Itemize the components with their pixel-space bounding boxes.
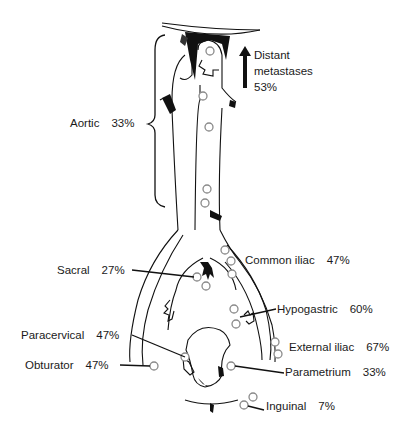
parametrium-pct: 33% <box>363 366 386 378</box>
label-aortic: Aortic33% <box>70 117 134 130</box>
distant-pct: 53% <box>254 79 313 95</box>
inguinal-name: Inguinal <box>266 400 306 412</box>
label-inguinal: Inguinal7% <box>266 400 335 413</box>
paracervical-pct: 47% <box>96 329 119 341</box>
up-arrow-icon <box>239 46 251 88</box>
paracervical-name: Paracervical <box>21 329 84 341</box>
inguinal-pct: 7% <box>318 400 335 412</box>
obturator-name: Obturator <box>25 359 74 371</box>
curly-brace-icon <box>148 35 165 207</box>
label-parametrium: Parametrium33% <box>285 366 386 379</box>
diaphragm <box>162 23 260 34</box>
aortic-pct: 33% <box>111 117 134 129</box>
inguinal-ligament <box>185 400 238 404</box>
parametrium-name: Parametrium <box>285 366 351 378</box>
uterus <box>183 328 230 387</box>
external-iliac-name: External iliac <box>289 341 354 353</box>
sacral-vessel <box>200 262 214 280</box>
aortic-name: Aortic <box>70 117 99 129</box>
label-paracervical: Paracervical47% <box>21 329 119 342</box>
sacral-name: Sacral <box>57 264 90 276</box>
iliac-vessels <box>130 230 276 365</box>
leader-lines <box>120 270 284 410</box>
obturator-pct: 47% <box>86 359 109 371</box>
distant-line2: metastases <box>254 63 313 79</box>
label-sacral: Sacral27% <box>57 264 125 277</box>
external-iliac-pct: 67% <box>366 341 389 353</box>
label-common-iliac: Common iliac47% <box>245 254 350 267</box>
common-iliac-name: Common iliac <box>245 254 315 266</box>
distant-line1: Distant <box>254 47 313 63</box>
vena-cava <box>160 55 192 230</box>
label-distant-metastases: Distant metastases 53% <box>254 47 313 95</box>
hypogastric-name: Hypogastric <box>277 303 338 315</box>
common-iliac-pct: 47% <box>327 254 350 266</box>
label-hypogastric: Hypogastric60% <box>277 303 373 316</box>
label-external-iliac: External iliac67% <box>289 341 389 354</box>
sacral-pct: 27% <box>102 264 125 276</box>
label-obturator: Obturator47% <box>25 359 109 372</box>
hypogastric-pct: 60% <box>350 303 373 315</box>
